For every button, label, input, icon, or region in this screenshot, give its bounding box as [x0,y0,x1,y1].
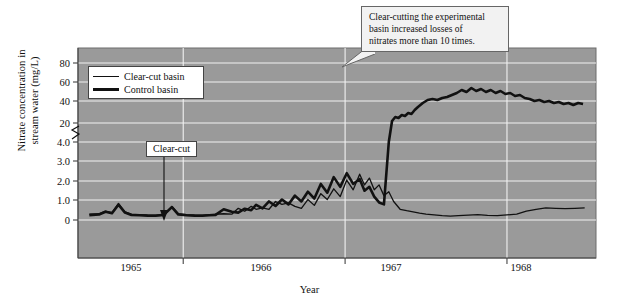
y-tick-label: 0 [40,215,70,226]
callout-line-1: Clear-cutting the experimental [369,11,502,23]
y-tick-label: 4.0 [40,137,70,148]
callout-annotation: Clear-cutting the experimental basin inc… [361,6,509,52]
callout-line-2: basin increased losses of [369,23,502,35]
legend-label-clear-cut-basin: Clear-cut basin [124,71,185,82]
y-tick-label: 1.0 [40,195,70,206]
x-tick-marks [183,258,507,264]
legend-item-control-basin: Control basin [93,83,199,96]
x-tick-label: 1967 [381,262,402,273]
x-tick-label: 1965 [121,262,142,273]
y-tick-label: 3.0 [40,156,70,167]
y-tick-label: 80 [40,58,70,69]
chart-plot [0,0,619,304]
x-tick-label: 1968 [511,262,532,273]
y-tick-label: 60 [40,77,70,88]
legend-item-clear-cut-basin: Clear-cut basin [93,70,199,83]
legend-swatch-thin-line-icon [93,76,119,78]
legend-label-control-basin: Control basin [124,84,178,95]
x-axis-title: Year [0,284,619,295]
y-tick-label: 20 [40,118,70,129]
figure-container: Clear-cutting the experimental basin inc… [0,0,619,304]
chart-legend: Clear-cut basin Control basin [88,66,204,99]
y-axis-title-line-1: Nitrate concentration in [16,0,29,211]
x-tick-label: 1966 [251,262,272,273]
y-axis-title-line-2: stream water (mg/L) [28,0,41,211]
y-axis-title: Nitrate concentration in stream water (m… [16,0,41,211]
callout-line-3: nitrates more than 10 times. [369,35,502,47]
y-tick-marks [73,63,78,220]
y-tick-label: 40 [40,96,70,107]
y-tick-label: 2.0 [40,176,70,187]
legend-swatch-thick-line-icon [93,88,119,91]
clear-cut-annotation-label: Clear-cut [146,141,197,157]
